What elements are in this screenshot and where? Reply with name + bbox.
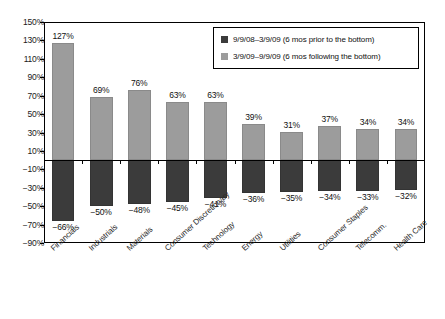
legend-swatch-light-icon (221, 53, 228, 60)
x-axis-label: Telecomm. (354, 221, 388, 253)
legend-entry-1: 3/9/09–9/9/09 (6 mos following the botto… (221, 50, 410, 63)
x-axis-label: Materials (125, 225, 154, 253)
legend-label-1: 3/9/09–9/9/09 (6 mos following the botto… (233, 53, 380, 61)
x-axis-label: Health Care (392, 218, 429, 253)
x-axis-label: Technology (201, 220, 236, 253)
legend-swatch-dark-icon (221, 36, 228, 43)
legend-label-0: 9/9/08–3/9/09 (6 mos prior to the bottom… (233, 36, 374, 44)
x-axis-label: Energy (240, 229, 264, 252)
x-axis-label: Consumer Discretionary (163, 190, 231, 253)
bar-chart: 150%130%110%90%70%50%30%10%−10%−30%−50%−… (0, 0, 445, 319)
zero-baseline (44, 160, 425, 161)
x-axis-label: Utilities (278, 229, 303, 252)
legend-entry-0: 9/9/08–3/9/09 (6 mos prior to the bottom… (221, 33, 410, 46)
x-axis-label: Financials (49, 223, 81, 253)
x-axis-label: Industrials (87, 222, 119, 252)
chart-legend: 9/9/08–3/9/09 (6 mos prior to the bottom… (213, 27, 419, 69)
